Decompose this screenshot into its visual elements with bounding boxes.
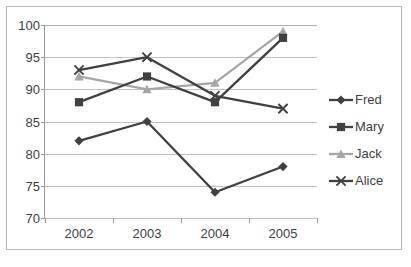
legend-item-label: Jack (355, 147, 382, 160)
x-axis-tick-label: 2005 (269, 227, 298, 240)
y-axis-tick-label: 90 (26, 83, 40, 96)
legend-item-label: Fred (355, 93, 382, 106)
data-point-diamond (336, 95, 345, 104)
legend-marker-cross-icon (328, 174, 354, 188)
plot-area: 100959085807570 2002200320042005 (44, 25, 317, 219)
legend-item-label: Mary (355, 120, 384, 133)
data-point-square (337, 122, 345, 130)
legend-marker-square-icon (328, 120, 354, 134)
series-line-jack (79, 31, 283, 89)
x-axis-tick-mark (249, 218, 250, 223)
legend-item-fred[interactable]: Fred (328, 86, 400, 113)
series-lines (45, 25, 317, 218)
x-axis-tick-mark (113, 218, 114, 223)
y-axis-tick-label: 70 (26, 212, 40, 225)
legend-marker-diamond-icon (328, 93, 354, 107)
series-line-mary (79, 38, 283, 102)
legend-item-alice[interactable]: Alice (328, 167, 400, 194)
legend-marker-triangle-icon (328, 147, 354, 161)
data-point-diamond (278, 162, 287, 171)
x-axis-tick-mark (317, 218, 318, 223)
data-point-square (143, 72, 151, 80)
x-axis-tick-label: 2003 (133, 227, 162, 240)
series-line-fred (79, 122, 283, 193)
y-axis-tick-label: 100 (18, 19, 40, 32)
chart-legend: FredMaryJackAlice (328, 86, 400, 194)
x-axis-tick-label: 2004 (201, 227, 230, 240)
x-axis-tick-mark (45, 218, 46, 223)
legend-item-jack[interactable]: Jack (328, 140, 400, 167)
data-point-square (279, 34, 287, 42)
data-point-diamond (74, 136, 83, 145)
x-axis-tick-mark (181, 218, 182, 223)
y-axis-tick-label: 95 (26, 51, 40, 64)
data-point-square (75, 98, 83, 106)
y-axis-tick-label: 75 (26, 179, 40, 192)
x-axis-tick-label: 2002 (65, 227, 94, 240)
legend-item-mary[interactable]: Mary (328, 113, 400, 140)
y-axis-tick-label: 85 (26, 115, 40, 128)
legend-item-label: Alice (355, 174, 383, 187)
y-axis-tick-label: 80 (26, 147, 40, 160)
